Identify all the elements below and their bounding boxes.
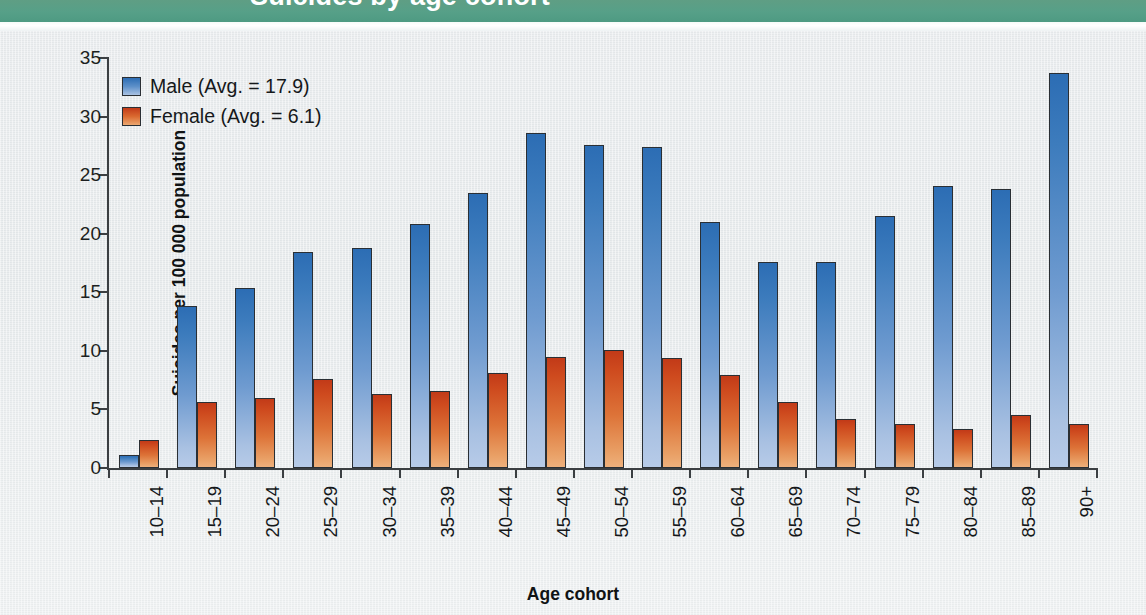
bar-group	[758, 58, 798, 468]
x-tick-mark	[340, 468, 342, 478]
bar-female	[836, 419, 856, 468]
y-tick-label: 15	[80, 281, 101, 303]
bar-male	[177, 306, 197, 468]
bar-female	[1069, 424, 1089, 469]
y-tick-label: 5	[90, 398, 101, 420]
bar-male	[933, 186, 953, 468]
bar-male	[526, 133, 546, 468]
x-tick-label: 20–24	[262, 486, 284, 537]
bar-male	[352, 248, 372, 468]
x-tick-mark	[399, 468, 401, 478]
bar-group	[642, 58, 682, 468]
legend-item-female[interactable]: Female (Avg. = 6.1)	[122, 105, 321, 128]
x-tick-label: 90+	[1076, 486, 1098, 517]
y-tick-label: 30	[80, 106, 101, 128]
x-tick-mark	[166, 468, 168, 478]
banner-title: Suicides by age cohort	[250, 0, 550, 12]
x-tick-label: 60–64	[727, 486, 749, 537]
bar-group	[352, 58, 392, 468]
legend-item-label: Female (Avg. = 6.1)	[150, 105, 321, 128]
chart-figure: Suicides per 100 000 population 05101520…	[0, 31, 1146, 615]
x-tick-label: 40–44	[495, 486, 517, 537]
bar-female	[372, 394, 392, 468]
bar-male	[816, 262, 836, 468]
y-tick-label: 35	[80, 47, 101, 69]
x-tick-label: 30–34	[379, 486, 401, 537]
bar-female	[778, 402, 798, 468]
bar-female	[255, 398, 275, 468]
x-tick-label: 25–29	[320, 486, 342, 537]
male-swatch-icon	[122, 77, 141, 96]
x-tick-label: 45–49	[553, 486, 575, 537]
bar-male	[991, 189, 1011, 468]
bar-group	[816, 58, 856, 468]
x-axis-title: Age cohort	[0, 584, 1146, 605]
bar-female	[604, 350, 624, 468]
x-tick-mark	[922, 468, 924, 478]
x-tick-mark	[515, 468, 517, 478]
bar-female	[720, 375, 740, 468]
x-tick-mark	[457, 468, 459, 478]
legend-item-label: Male (Avg. = 17.9)	[150, 75, 310, 98]
bar-group	[875, 58, 915, 468]
y-tick-label: 25	[80, 164, 101, 186]
bar-female	[1011, 415, 1031, 468]
bar-group	[1049, 58, 1089, 468]
bar-female	[895, 424, 915, 469]
x-tick-mark	[805, 468, 807, 478]
x-tick-label: 10–14	[146, 486, 168, 537]
bar-female	[953, 429, 973, 468]
bar-male	[642, 147, 662, 468]
x-tick-mark	[1096, 468, 1098, 478]
x-tick-label: 75–79	[902, 486, 924, 537]
x-tick-label: 80–84	[960, 486, 982, 537]
bar-female	[546, 357, 566, 468]
bar-group	[991, 58, 1031, 468]
bar-female	[197, 402, 217, 468]
x-tick-label: 55–59	[669, 486, 691, 537]
top-banner: Suicides by age cohort	[0, 0, 1146, 22]
female-swatch-icon	[122, 107, 141, 126]
x-tick-mark	[631, 468, 633, 478]
bar-female	[430, 391, 450, 468]
bar-male	[468, 193, 488, 468]
bar-male	[235, 288, 255, 468]
bar-male	[758, 262, 778, 468]
bar-group	[700, 58, 740, 468]
x-tick-mark	[108, 468, 110, 478]
y-tick-label: 20	[80, 223, 101, 245]
x-tick-mark	[1038, 468, 1040, 478]
bar-male	[875, 216, 895, 468]
bar-male	[584, 145, 604, 468]
x-axis-line	[107, 468, 1097, 470]
bar-male	[410, 224, 430, 468]
legend: Male (Avg. = 17.9)Female (Avg. = 6.1)	[122, 75, 321, 135]
bar-male	[700, 222, 720, 468]
x-tick-mark	[689, 468, 691, 478]
bar-group	[526, 58, 566, 468]
y-tick-label: 10	[80, 340, 101, 362]
legend-item-male[interactable]: Male (Avg. = 17.9)	[122, 75, 321, 98]
x-tick-mark	[224, 468, 226, 478]
x-tick-label: 85–89	[1018, 486, 1040, 537]
bar-female	[662, 358, 682, 468]
bar-female	[488, 373, 508, 468]
x-tick-mark	[747, 468, 749, 478]
x-tick-mark	[980, 468, 982, 478]
x-tick-mark	[573, 468, 575, 478]
y-tick-label: 0	[90, 457, 101, 479]
bar-group	[933, 58, 973, 468]
x-tick-mark	[864, 468, 866, 478]
x-tick-mark	[282, 468, 284, 478]
bar-female	[139, 440, 159, 468]
bar-group	[468, 58, 508, 468]
bar-male	[1049, 73, 1069, 468]
bar-group	[584, 58, 624, 468]
x-tick-label: 50–54	[611, 486, 633, 537]
x-tick-label: 35–39	[437, 486, 459, 537]
bar-female	[313, 379, 333, 468]
bar-male	[293, 252, 313, 468]
banner-underline	[0, 22, 1146, 31]
x-tick-label: 15–19	[204, 486, 226, 537]
x-tick-label: 65–69	[785, 486, 807, 537]
